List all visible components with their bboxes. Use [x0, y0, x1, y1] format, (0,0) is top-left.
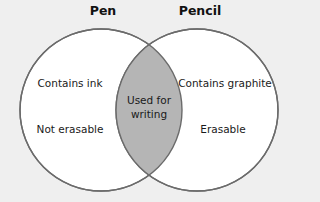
pen-item-contains-ink: Contains ink [30, 77, 110, 90]
overlap-line2: writing [119, 108, 179, 121]
overlap-line1: Used for [119, 94, 179, 107]
pencil-item-contains-graphite: Contains graphite [175, 77, 275, 90]
pencil-item-erasable: Erasable [183, 123, 263, 136]
pen-item-not-erasable: Not erasable [30, 123, 110, 136]
